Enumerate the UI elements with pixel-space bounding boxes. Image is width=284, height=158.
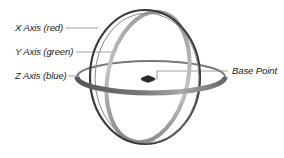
rotate-gizmo-diagram: X Axis (red) Y Axis (green) Z Axis (blue… <box>0 0 284 158</box>
x-axis-label: X Axis (red) <box>15 22 63 33</box>
base-point-icon <box>141 75 155 83</box>
y-axis-label: Y Axis (green) <box>15 46 73 57</box>
z-axis-ring-back <box>77 61 225 77</box>
base-point-label: Base Point <box>232 65 277 76</box>
z-axis-label: Z Axis (blue) <box>15 70 67 81</box>
